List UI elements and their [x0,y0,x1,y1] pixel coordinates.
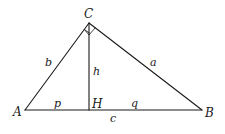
vertex-label-H: H [91,97,103,111]
vertex-label-C: C [84,7,93,21]
side-label-p: p [54,97,61,110]
side-label-b: b [45,56,52,69]
side-label-a: a [150,56,157,69]
side-label-q: q [131,97,138,110]
side-a-CB [89,23,202,110]
right-angle-mark-right [84,28,95,35]
side-label-h: h [93,65,100,78]
side-label-c: c [110,112,116,125]
vertex-label-B: B [204,106,214,120]
right-triangle-diagram: C A B H b a h p q c [0,0,225,134]
vertex-label-A: A [12,105,22,119]
